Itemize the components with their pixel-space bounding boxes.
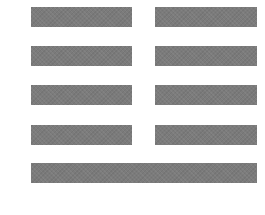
line-3-left-segment (31, 85, 132, 105)
line-2-right-segment (155, 46, 257, 66)
line-2-left-segment (31, 46, 132, 66)
line-3-right-segment (155, 85, 257, 105)
line-4-right-segment (155, 125, 257, 145)
line-5-solid (31, 163, 257, 183)
line-1-right-segment (155, 7, 257, 27)
line-4-left-segment (31, 125, 132, 145)
line-1-left-segment (31, 7, 132, 27)
